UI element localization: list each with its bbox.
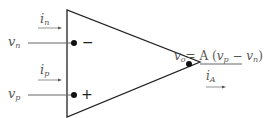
- non-inverting-sign: +: [81, 87, 93, 101]
- output-equation: vo= A (vp − vn): [174, 50, 263, 64]
- inverting-sign: −: [82, 35, 94, 49]
- vn-voltage-label: vn: [8, 35, 21, 50]
- ip-current-label: ip: [40, 63, 49, 78]
- inverting-terminal-dot: [71, 40, 77, 46]
- non-inverting-terminal-dot: [71, 92, 77, 98]
- op-amp-diagram: in vn − ip vp + vo= A (vp − vn) iA: [0, 0, 267, 118]
- in-current-label: in: [40, 12, 49, 27]
- vp-voltage-label: vp: [8, 87, 20, 102]
- ia-current-arrow-icon: [206, 86, 226, 89]
- ia-current-label: iA: [206, 70, 216, 84]
- ip-current-arrow-icon: [38, 79, 62, 82]
